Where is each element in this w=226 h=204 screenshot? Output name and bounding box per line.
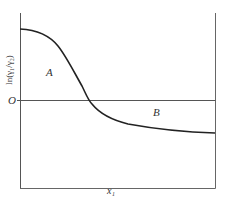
chart <box>0 0 226 204</box>
region-b-label: B <box>153 107 160 118</box>
data-curve <box>20 29 215 133</box>
origin-label: O <box>8 95 16 106</box>
region-a-label: A <box>46 67 53 78</box>
x-axis-label: x₁ <box>107 186 115 196</box>
y-axis-label: ln(γ₁/γ₂) <box>3 45 15 95</box>
